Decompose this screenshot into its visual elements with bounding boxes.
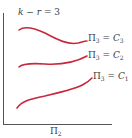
label-const-sub: 3 xyxy=(120,37,124,44)
curve-c1 xyxy=(17,78,92,108)
label-const: C xyxy=(113,50,120,60)
label-pi: Π xyxy=(93,71,101,81)
label-const-sub: 2 xyxy=(120,54,124,61)
label-pi: Π xyxy=(88,50,96,60)
x-axis-label: Π2 xyxy=(50,127,62,137)
annotation-k-minus-r: k − r = 3 xyxy=(18,8,60,17)
label-pi: Π xyxy=(88,33,96,43)
annotation-op: − xyxy=(23,7,36,17)
label-eq: = xyxy=(100,50,113,60)
x-label-sub: 2 xyxy=(58,130,62,137)
curve-label-c2: Π3 = C2 xyxy=(88,51,124,61)
annotation-eq: = 3 xyxy=(41,7,60,17)
label-eq: = xyxy=(100,33,113,43)
curve-label-c1: Π3 = C1 xyxy=(93,72,129,82)
label-const: C xyxy=(118,71,125,81)
curve-c2 xyxy=(19,56,87,67)
label-const-sub: 1 xyxy=(125,75,129,82)
label-eq: = xyxy=(105,71,118,81)
diagram-canvas xyxy=(0,0,132,138)
curve-label-c3: Π3 = C3 xyxy=(88,34,124,44)
curve-c3 xyxy=(19,28,87,44)
label-const: C xyxy=(113,33,120,43)
x-label-pi: Π xyxy=(50,126,58,136)
